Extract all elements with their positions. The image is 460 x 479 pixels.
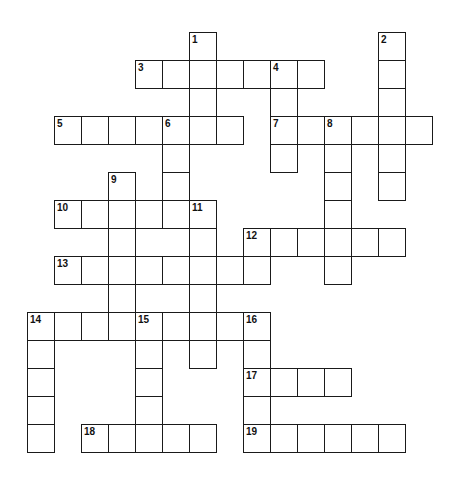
crossword-cell[interactable]: 15 — [135, 312, 163, 341]
crossword-cell[interactable] — [324, 228, 352, 257]
crossword-cell[interactable] — [378, 172, 406, 201]
crossword-cell[interactable] — [108, 256, 136, 285]
crossword-cell[interactable]: 2 — [378, 32, 406, 61]
crossword-cell[interactable] — [216, 312, 244, 341]
crossword-cell[interactable] — [270, 88, 298, 117]
crossword-cell[interactable] — [162, 424, 190, 453]
crossword-cell[interactable] — [108, 200, 136, 229]
crossword-cell[interactable] — [162, 256, 190, 285]
crossword-cell[interactable] — [27, 368, 55, 397]
crossword-cell[interactable]: 5 — [54, 116, 82, 145]
crossword-cell[interactable] — [189, 256, 217, 285]
crossword-cell[interactable] — [189, 116, 217, 145]
crossword-cell[interactable] — [189, 424, 217, 453]
crossword-cell[interactable] — [27, 396, 55, 425]
crossword-cell[interactable] — [189, 228, 217, 257]
crossword-cell[interactable] — [162, 312, 190, 341]
crossword-cell[interactable] — [54, 312, 82, 341]
crossword-cell[interactable] — [135, 424, 163, 453]
crossword-cell[interactable] — [216, 60, 244, 89]
crossword-cell[interactable] — [378, 116, 406, 145]
crossword-cell[interactable] — [162, 172, 190, 201]
crossword-cell[interactable] — [324, 172, 352, 201]
crossword-cell[interactable]: 18 — [81, 424, 109, 453]
crossword-cell[interactable] — [351, 424, 379, 453]
crossword-cell[interactable] — [189, 312, 217, 341]
crossword-cell[interactable] — [378, 228, 406, 257]
crossword-cell[interactable] — [135, 200, 163, 229]
crossword-cell[interactable] — [108, 284, 136, 313]
crossword-cell[interactable] — [270, 144, 298, 173]
clue-number: 10 — [57, 202, 68, 213]
crossword-cell[interactable] — [243, 256, 271, 285]
crossword-cell[interactable] — [108, 312, 136, 341]
crossword-cell[interactable] — [189, 60, 217, 89]
crossword-cell[interactable]: 13 — [54, 256, 82, 285]
crossword-cell[interactable] — [243, 340, 271, 369]
crossword-cell[interactable] — [27, 340, 55, 369]
crossword-cell[interactable] — [216, 256, 244, 285]
crossword-cell[interactable] — [378, 88, 406, 117]
crossword-cell[interactable] — [135, 256, 163, 285]
crossword-cell[interactable]: 14 — [27, 312, 55, 341]
crossword-cell[interactable] — [135, 368, 163, 397]
crossword-cell[interactable] — [243, 60, 271, 89]
crossword-cell[interactable] — [81, 116, 109, 145]
crossword-cell[interactable] — [378, 60, 406, 89]
clue-number: 11 — [192, 202, 203, 213]
crossword-cell[interactable] — [81, 256, 109, 285]
crossword-cell[interactable]: 10 — [54, 200, 82, 229]
crossword-cell[interactable]: 11 — [189, 200, 217, 229]
crossword-cell[interactable] — [189, 284, 217, 313]
crossword-cell[interactable] — [270, 228, 298, 257]
crossword-cell[interactable]: 17 — [243, 368, 271, 397]
crossword-cell[interactable] — [351, 116, 379, 145]
crossword-cell[interactable] — [270, 368, 298, 397]
crossword-cell[interactable] — [378, 144, 406, 173]
crossword-cell[interactable] — [162, 144, 190, 173]
crossword-cell[interactable] — [324, 200, 352, 229]
crossword-cell[interactable] — [135, 116, 163, 145]
crossword-cell[interactable]: 16 — [243, 312, 271, 341]
crossword-cell[interactable]: 4 — [270, 60, 298, 89]
crossword-cell[interactable] — [351, 228, 379, 257]
crossword-cell[interactable] — [135, 340, 163, 369]
clue-number: 17 — [246, 370, 257, 381]
crossword-cell[interactable] — [162, 200, 190, 229]
crossword-cell[interactable] — [405, 116, 433, 145]
crossword-cell[interactable] — [135, 396, 163, 425]
clue-number: 1 — [192, 34, 198, 45]
crossword-cell[interactable]: 1 — [189, 32, 217, 61]
crossword-cell[interactable] — [108, 116, 136, 145]
crossword-cell[interactable] — [189, 88, 217, 117]
crossword-cell[interactable] — [27, 424, 55, 453]
crossword-cell[interactable]: 7 — [270, 116, 298, 145]
crossword-cell[interactable] — [270, 424, 298, 453]
crossword-cell[interactable] — [297, 424, 325, 453]
crossword-cell[interactable] — [297, 228, 325, 257]
crossword-cell[interactable]: 8 — [324, 116, 352, 145]
crossword-cell[interactable] — [297, 368, 325, 397]
crossword-cell[interactable] — [108, 228, 136, 257]
crossword-cell[interactable]: 3 — [135, 60, 163, 89]
crossword-cell[interactable] — [162, 60, 190, 89]
crossword-cell[interactable] — [324, 368, 352, 397]
crossword-cell[interactable] — [378, 424, 406, 453]
clue-number: 4 — [273, 62, 279, 73]
crossword-cell[interactable] — [297, 116, 325, 145]
crossword-cell[interactable] — [81, 200, 109, 229]
crossword-cell[interactable]: 19 — [243, 424, 271, 453]
crossword-cell[interactable] — [297, 60, 325, 89]
clue-number: 18 — [84, 426, 95, 437]
crossword-cell[interactable] — [216, 116, 244, 145]
crossword-cell[interactable] — [324, 424, 352, 453]
crossword-cell[interactable]: 12 — [243, 228, 271, 257]
crossword-cell[interactable]: 9 — [108, 172, 136, 201]
crossword-cell[interactable]: 6 — [162, 116, 190, 145]
crossword-cell[interactable] — [243, 396, 271, 425]
crossword-cell[interactable] — [324, 144, 352, 173]
crossword-cell[interactable] — [108, 424, 136, 453]
crossword-cell[interactable] — [189, 340, 217, 369]
crossword-cell[interactable] — [81, 312, 109, 341]
crossword-cell[interactable] — [324, 256, 352, 285]
